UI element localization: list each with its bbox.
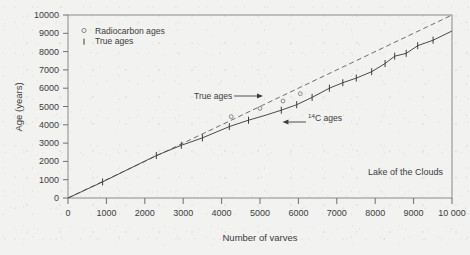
chart-svg: 0 1000 2000 3000 4000 5000: [0, 0, 470, 255]
site-label: Lake of the Clouds: [368, 167, 444, 177]
figure-canvas: 0 1000 2000 3000 4000 5000: [0, 0, 470, 255]
legend-item-label: True ages: [95, 36, 133, 46]
y-tick-label: 6000: [39, 83, 59, 93]
y-tick-4000: 4000: [39, 120, 68, 130]
y-tick-label: 5000: [39, 102, 59, 112]
y-tick-5000: 5000: [39, 102, 68, 112]
legend-item-true-ages: True ages: [84, 36, 133, 46]
open-circle-marker: [281, 99, 285, 103]
y-tick-label: 1000: [39, 175, 59, 185]
x-tick-label: 7000: [327, 208, 347, 218]
x-tick-label: 4000: [212, 208, 232, 218]
y-tick-1000: 1000: [39, 175, 68, 185]
x-tick-8000: 8000: [365, 198, 385, 218]
x-tick-label: 8000: [365, 208, 385, 218]
x-tick-7000: 7000: [327, 198, 347, 218]
y-tick-7000: 7000: [39, 65, 68, 75]
svg-text:14C ages: 14C ages: [308, 112, 342, 123]
arrowhead-icon: [283, 119, 289, 124]
x-tick-10000: 10 000: [438, 198, 466, 218]
y-axis-group: 0 1000 2000 3000 4000 5000: [34, 10, 68, 203]
x-tick-5000: 5000: [250, 198, 270, 218]
x-tick-1000: 1000: [96, 198, 116, 218]
legend: Radiocarbon ages True ages: [82, 26, 165, 47]
open-circle-marker-icon: [82, 28, 86, 32]
x-tick-label: 5000: [250, 208, 270, 218]
y-tick-3000: 3000: [39, 138, 68, 148]
y-tick-8000: 8000: [39, 47, 68, 57]
y-tick-10000: 10000: [34, 10, 68, 20]
y-tick-label: 10000: [34, 10, 59, 20]
x-tick-4000: 4000: [212, 198, 232, 218]
x-tick-2000: 2000: [135, 198, 155, 218]
annotation-true-ages: True ages: [194, 91, 263, 101]
y-tick-label: 8000: [39, 47, 59, 57]
x-axis-title: Number of varves: [223, 232, 298, 243]
y-tick-6000: 6000: [39, 83, 68, 93]
x-tick-label: 9000: [404, 208, 424, 218]
y-tick-2000: 2000: [39, 156, 68, 166]
y-tick-label: 2000: [39, 156, 59, 166]
y-tick-9000: 9000: [39, 28, 68, 38]
y-tick-label: 0: [54, 193, 59, 203]
y-tick-label: 3000: [39, 138, 59, 148]
open-circle-marker: [258, 107, 262, 111]
x-tick-label: 0: [65, 208, 70, 218]
x-tick-label: 1000: [96, 208, 116, 218]
y-tick-label: 4000: [39, 120, 59, 130]
annotation-c14-ages: 14C ages: [283, 112, 343, 125]
annotation-label: C ages: [315, 113, 342, 123]
x-tick-label: 2000: [135, 208, 155, 218]
legend-item-radiocarbon-ages: Radiocarbon ages: [82, 26, 165, 36]
cross-markers-group: [103, 37, 434, 186]
arrowhead-icon: [257, 93, 263, 98]
open-circle-marker: [298, 92, 302, 96]
y-axis-title: Age (years): [13, 82, 24, 131]
y-tick-label: 7000: [39, 65, 59, 75]
y-tick-label: 9000: [39, 28, 59, 38]
x-tick-0: 0: [65, 198, 70, 218]
x-tick-3000: 3000: [173, 198, 193, 218]
x-tick-9000: 9000: [404, 198, 424, 218]
x-axis-group: 0 1000 2000 3000 4000 5000: [65, 198, 465, 218]
x-tick-label: 10 000: [438, 208, 466, 218]
x-tick-6000: 6000: [288, 198, 308, 218]
x-tick-label: 6000: [288, 208, 308, 218]
open-circle-marker: [229, 115, 233, 119]
annotation-label: True ages: [194, 91, 232, 101]
x-tick-label: 3000: [173, 208, 193, 218]
legend-item-label: Radiocarbon ages: [95, 26, 165, 36]
y-tick-0: 0: [54, 193, 68, 203]
